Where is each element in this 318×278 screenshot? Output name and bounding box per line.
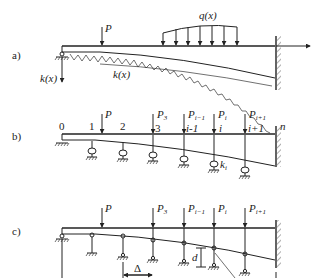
node-i-1-label: i-1 [186,122,198,134]
node-i-label: i [219,122,222,134]
node-3-label: 3 [155,122,161,134]
q-label: q(x) [199,9,217,22]
gap-d-label: d [192,251,198,263]
load-Pi+1-label-b: Pi+1 [248,108,266,122]
node-0-label: 0 [59,120,65,132]
load-P3-label-b: P3 [156,108,168,122]
panel-c-label: c) [12,225,21,238]
gap-dimension-d: d [192,248,206,267]
load-Pi-1-label-b: Pi−1 [187,108,205,122]
delta-label: Δ [134,262,141,274]
panel-c: c) P P3 Pi−1 Pi Pi+1 [12,202,281,278]
beam-diagram: a) k(x) k(x) P q(x) [0,0,318,278]
load-Pi-1-label-c: Pi−1 [187,202,205,216]
load-Pi-label-c: Pi [217,202,227,216]
panel-b: b) 0 1 2 3 i-1 i i+1 n P P3 Pi−1 Pi Pi+1 [12,108,286,179]
panel-b-label: b) [12,130,22,143]
beam-bottom-b [62,140,275,166]
spacing-dimension-delta: Δ [123,262,152,278]
load-P-label-a: P [104,22,112,34]
k-mid-label: k(x) [113,68,130,81]
spring-ki-label: ki [220,158,227,172]
load-P3-label-c: P3 [156,202,168,216]
beam-bottom-c [62,234,275,260]
load-P-label-b: P [104,108,112,120]
k-left-label: k(x) [40,72,57,85]
panel-a-label: a) [12,49,21,62]
load-P-label-c: P [104,202,112,214]
node-2-label: 2 [120,120,126,132]
load-Pi-label-b: Pi [217,108,227,122]
node-1-label: 1 [89,120,95,132]
load-Pi+1-label-c: Pi+1 [248,202,266,216]
leader-line [215,253,235,278]
node-i+1-label: i+1 [248,122,264,134]
distributed-load-arrows [163,26,237,45]
